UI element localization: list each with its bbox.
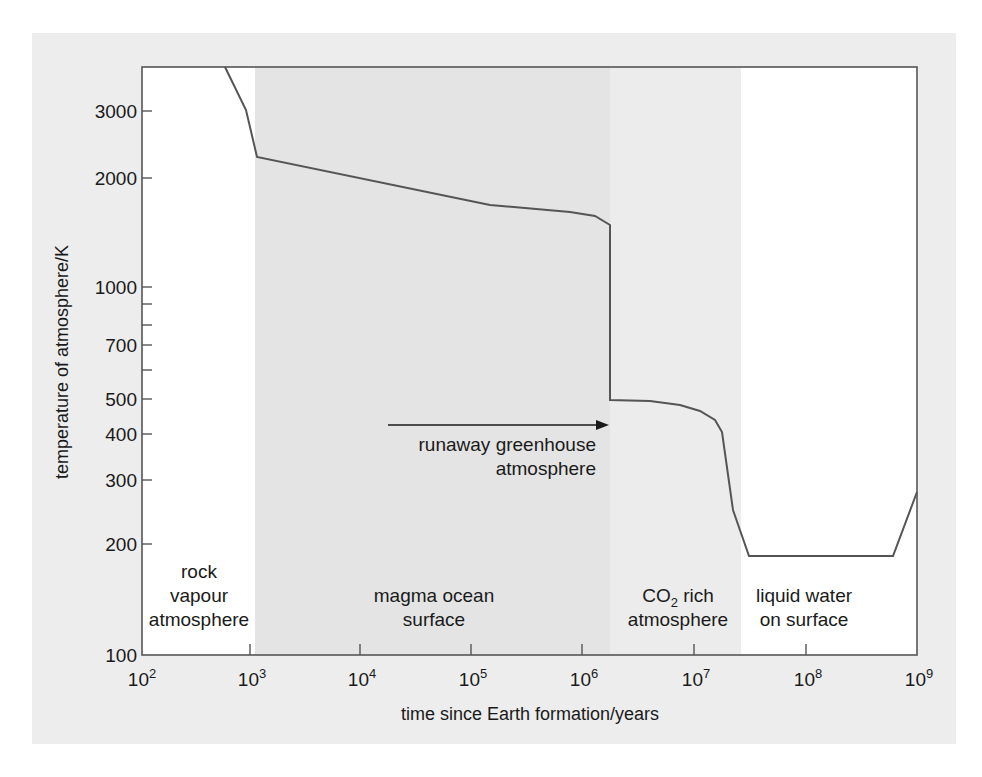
svg-text:3000: 3000	[95, 101, 137, 122]
svg-text:2000: 2000	[95, 168, 137, 189]
svg-text:105: 105	[459, 666, 487, 690]
svg-text:magma ocean: magma ocean	[374, 585, 494, 606]
svg-text:on surface: on surface	[760, 609, 849, 630]
svg-text:109: 109	[905, 666, 933, 690]
svg-text:atmosphere: atmosphere	[149, 609, 249, 630]
svg-text:700: 700	[105, 335, 137, 356]
svg-text:runaway greenhouse: runaway greenhouse	[419, 434, 596, 455]
svg-text:rock: rock	[181, 561, 217, 582]
svg-text:102: 102	[128, 666, 156, 690]
svg-text:1000: 1000	[95, 277, 137, 298]
y-axis-title: temperature of atmosphere/K	[52, 245, 72, 479]
region-co2-rich	[610, 67, 741, 655]
svg-text:atmosphere: atmosphere	[496, 458, 596, 479]
x-tick-labels: 102 103 104 105 106 107 108 109	[128, 666, 933, 690]
svg-text:103: 103	[238, 666, 266, 690]
chart: 3000 2000 1000 700 500 400 300 200 100 1…	[0, 0, 982, 777]
region-liquid-water	[741, 67, 917, 655]
x-axis-title: time since Earth formation/years	[401, 704, 659, 724]
svg-text:107: 107	[682, 666, 710, 690]
svg-text:200: 200	[105, 534, 137, 555]
svg-text:500: 500	[105, 389, 137, 410]
svg-text:300: 300	[105, 470, 137, 491]
svg-text:vapour: vapour	[170, 585, 229, 606]
svg-text:108: 108	[794, 666, 822, 690]
region-magma-ocean	[255, 67, 610, 655]
svg-text:liquid water: liquid water	[756, 585, 853, 606]
svg-text:surface: surface	[403, 609, 465, 630]
svg-text:100: 100	[105, 645, 137, 666]
svg-text:106: 106	[570, 666, 598, 690]
svg-text:400: 400	[105, 424, 137, 445]
svg-text:104: 104	[348, 666, 376, 690]
y-tick-labels: 3000 2000 1000 700 500 400 300 200 100	[95, 101, 137, 666]
svg-text:atmosphere: atmosphere	[628, 609, 728, 630]
